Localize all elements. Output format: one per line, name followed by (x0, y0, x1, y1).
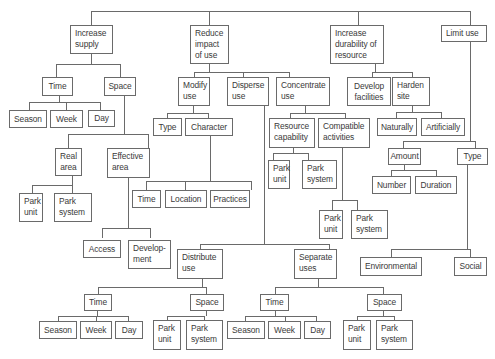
node-increase-supply: Increase supply (70, 25, 113, 54)
node-du-park-system: Park system (186, 320, 223, 350)
node-is-time-season: Season (9, 110, 47, 128)
node-naturally: Naturally (377, 118, 417, 136)
node-ch-practices: Practices (210, 190, 250, 208)
node-environmental: Environmental (360, 257, 422, 276)
node-reduce-impact: Reduce impact of use (190, 25, 229, 64)
node-increase-durability: Increase durability of resource (330, 25, 384, 64)
node-du-time: Time (84, 294, 112, 311)
node-duration: Duration (415, 176, 457, 194)
node-ca-park-unit: Park unit (319, 210, 343, 239)
node-lu-type: Type (457, 148, 488, 165)
node-du-day: Day (115, 321, 143, 339)
node-su-space: Space (367, 294, 402, 311)
node-rc-park-system: Park system (302, 160, 337, 189)
node-limit-use: Limit use (441, 25, 487, 42)
node-su-park-system: Park system (376, 320, 413, 350)
node-access: Access (83, 240, 121, 258)
node-ch-location: Location (165, 190, 207, 208)
node-su-season: Season (227, 321, 265, 339)
node-is-time: Time (42, 77, 73, 96)
node-su-time: Time (260, 294, 289, 311)
node-mu-type: Type (153, 118, 182, 136)
node-su-day: Day (304, 321, 331, 339)
node-mu-character: Character (185, 118, 233, 136)
node-du-space: Space (190, 294, 224, 311)
management-strategy-tree: Increase supply Reduce impact of use Inc… (0, 0, 495, 359)
node-harden-site: Harden site (392, 77, 430, 106)
node-du-park-unit: Park unit (153, 320, 181, 350)
node-resource-capability: Resource capability (269, 118, 315, 148)
node-modify-use: Modify use (178, 77, 210, 106)
node-rc-park-unit: Park unit (268, 160, 290, 189)
node-distribute-use: Distribute use (177, 249, 223, 279)
node-artificially: Artificially (421, 118, 465, 136)
node-lu-amount: Amount (388, 148, 421, 165)
node-du-week: Week (80, 321, 112, 339)
node-du-season: Season (39, 321, 77, 339)
node-ch-time: Time (132, 190, 161, 208)
node-social: Social (454, 257, 487, 276)
node-is-space: Space (104, 77, 136, 96)
node-ra-park-system: Park system (54, 193, 92, 222)
node-number: Number (372, 176, 411, 194)
node-is-time-week: Week (50, 110, 83, 128)
node-development: Develop- ment (128, 240, 171, 269)
node-real-area: Real area (55, 148, 82, 176)
node-su-park-unit: Park unit (343, 320, 371, 350)
node-compatible-activities: Compatible activities (318, 118, 370, 148)
node-ra-park-unit: Park unit (19, 193, 43, 222)
node-concentrate-use: Concentrate use (276, 77, 330, 106)
node-develop-facilities: Develop facilities (347, 77, 391, 106)
node-effective-area: Effective area (107, 148, 150, 178)
node-disperse-use: Disperse use (227, 77, 269, 106)
node-separate-uses: Separate uses (294, 249, 337, 279)
node-su-week: Week (268, 321, 301, 339)
node-is-time-day: Day (88, 110, 115, 127)
node-ca-park-system: Park system (351, 210, 388, 239)
